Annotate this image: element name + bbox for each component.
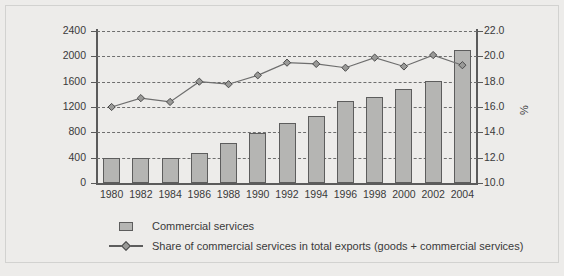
line-marker xyxy=(371,54,378,61)
y-tick-left xyxy=(91,56,96,57)
y-tick-label-left: 1200 xyxy=(34,101,86,111)
y-tick-label-left: 2400 xyxy=(34,25,86,35)
line-marker xyxy=(196,78,203,85)
line-marker xyxy=(254,72,261,79)
y-tick-right xyxy=(478,132,483,133)
y-tick-label-left: 800 xyxy=(34,126,86,136)
line-marker xyxy=(430,51,437,58)
chart-figure: US$ billion % 04008001200160020002400 10… xyxy=(0,0,564,276)
y-tick-label-right: 12.0 xyxy=(484,152,524,162)
y-tick-right xyxy=(478,158,483,159)
line-marker xyxy=(137,95,144,102)
y-tick-left xyxy=(91,107,96,108)
line-marker xyxy=(108,103,115,110)
y-tick-right xyxy=(478,31,483,32)
y-tick-right xyxy=(478,82,483,83)
line-marker xyxy=(166,98,173,105)
y-tick-right xyxy=(478,56,483,57)
y-tick-label-right: 18.0 xyxy=(484,76,524,86)
y-tick-label-right: 14.0 xyxy=(484,126,524,136)
y-tick-right xyxy=(478,183,483,184)
y-tick-label-right: 20.0 xyxy=(484,50,524,60)
legend-label-share-of-commercial-services: Share of commercial services in total ex… xyxy=(144,240,523,252)
y-tick-left xyxy=(91,82,96,83)
legend-item-commercial-services: Commercial services xyxy=(108,216,538,236)
y-tick-label-right: 22.0 xyxy=(484,25,524,35)
legend-label-commercial-services: Commercial services xyxy=(144,220,254,232)
plot-area xyxy=(97,31,477,183)
line-marker xyxy=(225,81,232,88)
y-tick-label-left: 400 xyxy=(34,152,86,162)
y-tick-label-right: 16.0 xyxy=(484,101,524,111)
y-tick-label-right: 10.0 xyxy=(484,177,524,187)
y-tick-right xyxy=(478,107,483,108)
legend-item-share-of-commercial-services: Share of commercial services in total ex… xyxy=(108,236,538,256)
chart-legend: Commercial services Share of commercial … xyxy=(108,216,538,256)
gridline xyxy=(97,183,477,184)
y-tick-label-left: 0 xyxy=(34,177,86,187)
line-marker xyxy=(313,60,320,67)
bar-swatch-icon xyxy=(108,222,144,231)
y-tick-label-left: 1600 xyxy=(34,76,86,86)
y-tick-left xyxy=(91,158,96,159)
y-tick-left xyxy=(91,183,96,184)
y-tick-label-left: 2000 xyxy=(34,50,86,60)
line-marker xyxy=(283,59,290,66)
line-marker xyxy=(400,63,407,70)
line-marker xyxy=(342,64,349,71)
y-tick-left xyxy=(91,132,96,133)
y-tick-left xyxy=(91,31,96,32)
line-marker xyxy=(459,62,466,69)
line-series-share-of-commercial-services xyxy=(97,31,477,183)
x-tick-label: 2004 xyxy=(442,189,482,200)
line-marker-icon xyxy=(108,245,144,247)
